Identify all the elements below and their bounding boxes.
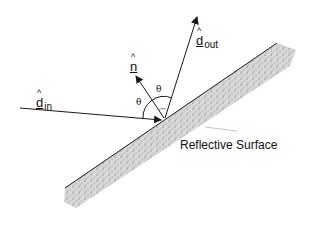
reflective-surface-band xyxy=(64,43,296,208)
incident-vector-label: ^ din xyxy=(36,96,52,113)
hat-accent: ^ xyxy=(197,25,201,38)
incident-angle-arc xyxy=(143,101,151,118)
reflected-angle-arc xyxy=(151,96,172,101)
surface-label-leader xyxy=(205,127,237,131)
outgoing-vector-label: ^ dout xyxy=(196,34,218,51)
hat-accent: ^ xyxy=(37,87,41,100)
reflective-surface-label: Reflective Surface xyxy=(180,138,277,152)
right-angle-mark xyxy=(158,108,166,110)
vector-subscript: out xyxy=(204,39,218,50)
reflected-angle-label: θ xyxy=(156,84,161,94)
normal-vector-label: ^ n xyxy=(130,60,137,73)
hat-accent: ^ xyxy=(131,51,135,64)
surface-edge-line xyxy=(65,43,277,188)
vector-subscript: in xyxy=(44,101,52,112)
incident-angle-label: θ xyxy=(136,97,141,107)
